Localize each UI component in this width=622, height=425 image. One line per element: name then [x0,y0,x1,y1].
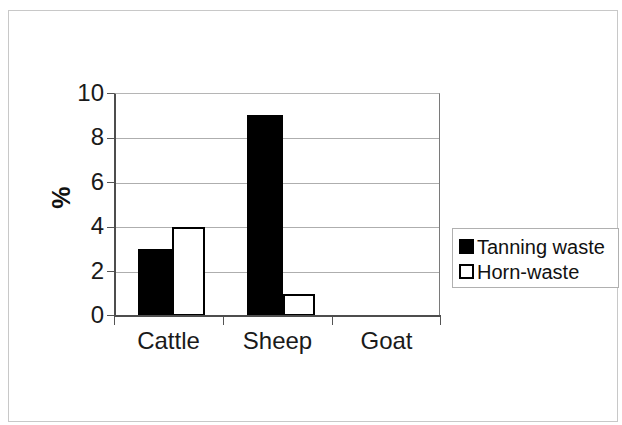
white-square-icon [459,264,474,279]
legend-entry-horn-waste: Horn-waste [459,259,612,284]
bar-sheep-tanning-waste [247,115,283,316]
x-tick-mark-cattle-sheep [223,317,224,325]
y-tick-label-8: 8 [64,125,104,149]
x-tick-mark-end [440,317,441,325]
legend-label-tanning-waste: Tanning waste [477,237,605,257]
y-tick-mark-4 [107,227,114,228]
plot-area [114,93,440,316]
x-axis-label-cattle: Cattle [114,329,223,353]
y-tick-mark-6 [107,182,114,183]
x-axis-label-sheep: Sheep [223,329,332,353]
y-axis-title: % [47,173,76,223]
y-tick-mark-0 [107,315,114,316]
y-tick-label-0: 0 [64,303,104,327]
y-tick-mark-8 [107,138,114,139]
y-tick-mark-10 [107,93,114,94]
y-tick-label-2: 2 [64,259,104,283]
bar-sheep-horn-waste [283,294,315,316]
bar-cattle-horn-waste [172,227,205,316]
chart-legend: Tanning waste Horn-waste [452,228,619,288]
bar-chart-figure: 10 8 6 4 2 0 % Cattle Sheep Goat [0,0,622,425]
bar-cattle-tanning-waste [138,249,172,316]
y-tick-mark-2 [107,271,114,272]
black-square-icon [459,239,474,254]
legend-entry-tanning-waste: Tanning waste [459,234,612,259]
x-tick-mark-start [114,317,115,325]
y-tick-label-10: 10 [64,81,104,105]
x-tick-mark-sheep-goat [332,317,333,325]
x-axis-line [114,315,441,317]
x-axis-label-goat: Goat [332,329,441,353]
legend-label-horn-waste: Horn-waste [477,262,579,282]
